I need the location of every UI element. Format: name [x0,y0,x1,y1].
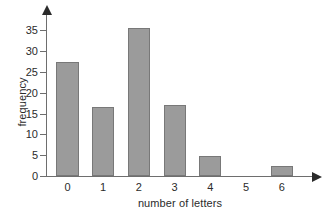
y-axis-tick-mark [40,93,46,94]
y-axis-line [46,14,47,177]
bar [56,62,78,176]
y-axis-title: frequency [14,17,30,187]
x-axis-tick-label: 2 [127,181,151,193]
y-axis-tick-label: 10 [0,129,38,140]
y-axis-arrow-icon [42,5,52,15]
y-axis-tick-mark [40,72,46,73]
y-axis-tick-label: 0 [0,171,38,182]
bar [92,107,114,176]
y-axis-tick-mark [40,134,46,135]
x-axis-tick-label: 5 [234,181,258,193]
frequency-bar-chart: frequency 05101520253035 0123456 number … [0,0,334,215]
bar [199,156,221,176]
x-axis-title: number of letters [46,197,314,210]
x-axis-tick-label: 0 [55,181,79,193]
x-axis-tick-label: 4 [198,181,222,193]
bar [164,105,186,176]
y-axis-tick-mark [40,155,46,156]
y-axis-tick-label: 30 [0,46,38,57]
x-axis-tick-label: 6 [270,181,294,193]
bar [271,166,293,176]
x-axis-line [46,176,314,177]
y-axis-tick-mark [40,30,46,31]
y-axis-tick-label: 35 [0,25,38,36]
y-axis-tick-mark [40,51,46,52]
x-axis-arrow-icon [312,172,322,182]
y-axis-tick-mark [40,114,46,115]
y-axis-tick-label: 15 [0,109,38,120]
y-axis-tick-label: 20 [0,88,38,99]
x-axis-tick-label: 1 [91,181,115,193]
x-axis-tick-label: 3 [163,181,187,193]
bar [128,28,150,176]
y-axis-tick-mark [40,176,46,177]
y-axis-tick-label: 25 [0,67,38,78]
y-axis-tick-label: 5 [0,150,38,161]
